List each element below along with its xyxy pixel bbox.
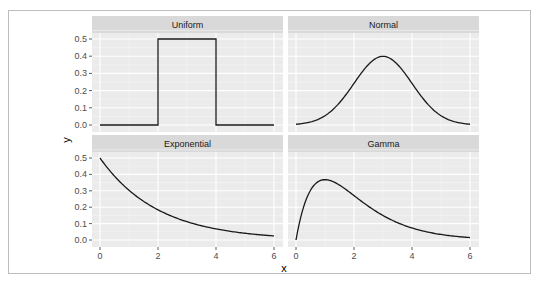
y-tick-label: 0.4 xyxy=(74,169,87,179)
facet-label: Gamma xyxy=(367,139,399,149)
facet-label: Exponential xyxy=(164,139,211,149)
y-tick-label: 0.3 xyxy=(74,68,87,78)
y-tick-label: 0.0 xyxy=(74,235,87,245)
panel-uniform: Uniform0.00.10.20.30.40.5 xyxy=(74,16,283,132)
x-tick-label: 4 xyxy=(409,251,414,261)
panel-normal: Normal xyxy=(288,16,479,132)
y-tick-label: 0.3 xyxy=(74,186,87,196)
y-tick-label: 0.2 xyxy=(74,86,87,96)
facet-label: Uniform xyxy=(172,20,204,30)
y-tick-label: 0.5 xyxy=(74,153,87,163)
y-tick-label: 0.1 xyxy=(74,103,87,113)
x-tick-label: 0 xyxy=(97,251,102,261)
y-axis-title: y xyxy=(60,137,72,143)
panel-exponential: Exponential0.00.10.20.30.40.50246 xyxy=(74,135,283,261)
x-axis-title: x xyxy=(281,262,287,274)
panel-gamma: Gamma0246 xyxy=(288,135,479,261)
y-tick-label: 0.5 xyxy=(74,34,87,44)
x-tick-label: 6 xyxy=(271,251,276,261)
x-tick-label: 6 xyxy=(467,251,472,261)
y-tick-label: 0.4 xyxy=(74,51,87,61)
y-tick-label: 0.0 xyxy=(74,120,87,130)
y-tick-label: 0.2 xyxy=(74,202,87,212)
x-tick-label: 4 xyxy=(213,251,218,261)
x-tick-label: 0 xyxy=(293,251,298,261)
facet-label: Normal xyxy=(369,20,398,30)
y-tick-label: 0.1 xyxy=(74,219,87,229)
faceted-density-chart: Uniform0.00.10.20.30.40.5NormalExponenti… xyxy=(0,0,541,285)
x-tick-label: 2 xyxy=(155,251,160,261)
x-tick-label: 2 xyxy=(351,251,356,261)
